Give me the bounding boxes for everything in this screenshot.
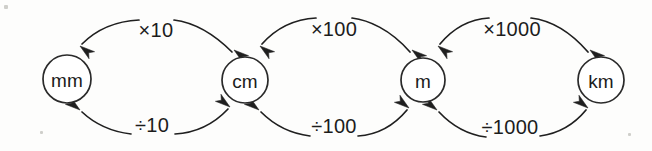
- edge-cm-to-m: ÷100: [244, 95, 411, 137]
- arrowhead-into-mm: [77, 42, 94, 58]
- node-label-km: km: [588, 71, 614, 92]
- scan-speck: [628, 133, 631, 136]
- arrowhead-into-cm: [257, 42, 274, 58]
- arc-segment-right: [175, 109, 228, 134]
- edge-label-div10: ÷10: [135, 114, 169, 136]
- edge-label-div100: ÷100: [311, 115, 357, 137]
- edge-group-top: ×10 ×100 ×1000: [77, 18, 604, 63]
- node-label-m: m: [415, 71, 431, 92]
- node-km[interactable]: km: [578, 57, 624, 103]
- edge-m-to-cm: ×100: [257, 18, 426, 63]
- edge-label-x10: ×10: [139, 19, 174, 41]
- node-m[interactable]: m: [401, 58, 445, 102]
- edge-m-to-km: ÷1000: [422, 95, 590, 138]
- arc-segment-right: [82, 20, 139, 44]
- scan-speck: [40, 131, 43, 134]
- metric-conversion-diagram: ×10 ×100 ×1000: [0, 0, 652, 151]
- edge-label-div1000: ÷1000: [482, 116, 539, 138]
- node-cm[interactable]: cm: [222, 57, 268, 103]
- edge-label-x1000: ×1000: [483, 18, 541, 40]
- arc-segment-left: [261, 112, 310, 136]
- arrowhead-into-m: [435, 42, 452, 58]
- arc-segment-right: [540, 110, 586, 136]
- arc-segment-left: [82, 112, 131, 134]
- arc-segment-left: [174, 20, 232, 52]
- edge-mm-to-cm: ÷10: [65, 94, 232, 136]
- scan-speck: [4, 5, 8, 9]
- edge-cm-to-mm: ×10: [77, 19, 248, 63]
- edge-group-bottom: ÷10 ÷100 ÷1000: [65, 94, 590, 138]
- arc-segment-right: [440, 18, 489, 44]
- node-mm[interactable]: mm: [43, 55, 91, 103]
- node-group: mm cm m km: [43, 55, 624, 103]
- arc-segment-right: [262, 18, 316, 44]
- arc-segment-right: [358, 110, 407, 136]
- arc-segment-left: [439, 112, 486, 137]
- diagram-page: ×10 ×100 ×1000: [0, 0, 652, 151]
- edge-km-to-m: ×1000: [435, 18, 604, 63]
- arc-segment-left: [352, 18, 410, 52]
- node-label-cm: cm: [232, 71, 258, 92]
- edge-label-x100: ×100: [311, 18, 357, 40]
- node-label-mm: mm: [51, 70, 83, 91]
